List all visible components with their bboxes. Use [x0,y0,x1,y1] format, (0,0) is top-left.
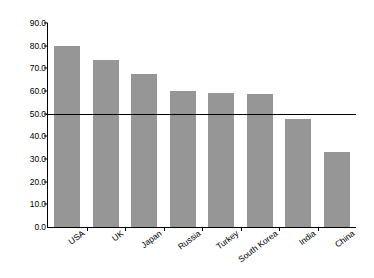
x-category-label: China [333,229,356,249]
y-tick-label: 20.0 [6,177,46,186]
y-tick-label: 70.0 [6,64,46,73]
y-tick-label: 30.0 [6,155,46,164]
bar-series [48,23,356,227]
bar [131,74,157,227]
x-category-label: UK [110,229,124,243]
y-tick-label: 60.0 [6,87,46,96]
bar [170,91,196,227]
bar [54,46,80,227]
x-category-label: South Korea [236,229,278,264]
bar [285,119,311,227]
y-tick-label: 40.0 [6,132,46,141]
y-axis-tick-labels: 90.080.070.060.050.040.030.020.010.00.0 [0,0,46,278]
bar [324,152,350,227]
x-category-label: India [298,229,318,247]
x-category-label: Japan [140,229,163,250]
y-tick-label: 0.0 [6,223,46,232]
reference-line [46,114,356,116]
x-category-label: Russia [176,229,202,251]
y-tick-label: 80.0 [6,41,46,50]
y-tick-label: 90.0 [6,19,46,28]
bar [93,60,119,227]
y-tick-label: 10.0 [6,200,46,209]
x-category-label: Turkey [215,229,240,251]
x-category-label: USA [67,229,86,246]
bar-chart: 90.080.070.060.050.040.030.020.010.00.0 … [0,0,374,278]
x-axis-category-labels: USAUKJapanRussiaTurkeySouth KoreaIndiaCh… [48,229,368,278]
plot-area [48,23,356,227]
y-tick-label: 50.0 [6,109,46,118]
